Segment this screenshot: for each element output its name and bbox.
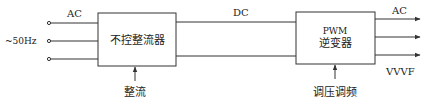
inverter-label-name: 逆变器 (319, 36, 352, 50)
output-ac-label: AC (391, 5, 407, 16)
input-ac-label: AC (66, 8, 82, 19)
dc-link-lines (176, 22, 296, 56)
input-lines (51, 23, 98, 59)
input-terminal-2 (47, 39, 50, 42)
output-arrows (375, 19, 420, 55)
ac-dc-ac-converter-diagram: AC ~50Hz 不控整流器 整流 DC PWM 逆变器 调压调频 AC VVV… (0, 0, 425, 101)
output-vvvf-label: VVVF (385, 66, 415, 77)
rectifier-label: 不控整流器 (110, 33, 165, 47)
inverter-control-label: 调压调频 (313, 85, 357, 99)
inverter-label-pwm: PWM (323, 26, 348, 36)
input-terminals (47, 21, 50, 60)
rectifier-control-label: 整流 (124, 85, 146, 99)
input-terminal-1 (47, 21, 50, 24)
input-terminal-3 (47, 57, 50, 60)
dc-label: DC (233, 7, 249, 18)
input-frequency-label: ~50Hz (5, 36, 37, 46)
